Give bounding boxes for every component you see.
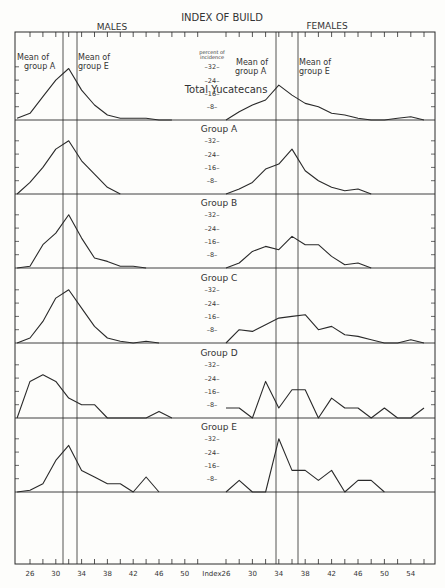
y-tick-label: –32– [205,286,220,294]
y-tick-label: –8– [207,251,218,259]
x-tick-label-males: 50 [180,570,189,578]
panel-title: Total Yucatecans [184,84,268,95]
chart-frame [15,32,435,564]
panel-title: Group E [201,422,237,432]
panel-title: Group C [201,273,238,283]
x-tick-label-females: 30 [248,570,257,578]
index-of-build-chart: INDEX OF BUILD MALES FEMALES percent of … [0,0,445,588]
y-tick-label: –32– [205,137,220,145]
x-tick-label-males: 26 [26,570,35,578]
x-tick-label-males: 34 [77,570,86,578]
x-tick-label-females: 26 [222,570,231,578]
mean-a-males-1: Mean of [17,53,49,62]
mean-a-females-2: group A [235,67,267,76]
y-tick-label: –16– [205,164,220,172]
mean-e-females-1: Mean of [299,58,331,67]
frame-border [15,32,435,564]
y-tick-label: –24– [205,300,220,308]
males-series-line [17,215,146,268]
y-tick-label: –16– [205,238,220,246]
females-series-line [226,381,424,418]
y-tick-label: –24– [205,225,220,233]
x-tick-label-females: 50 [380,570,389,578]
mean-lines [15,32,435,564]
y-tick-label: –24– [205,151,220,159]
males-series-line [17,290,159,343]
x-tick-label-females: 34 [274,570,283,578]
females-label: FEMALES [306,21,347,31]
males-series-line [17,375,172,418]
y-tick-label: –8– [207,177,218,185]
x-tick-label-males: 42 [129,570,138,578]
x-tick-label-males: 30 [51,570,60,578]
y-tick-label: –8– [207,326,218,334]
x-tick-label-females: 46 [354,570,363,578]
y-tick-label: –32– [205,211,220,219]
panel-title: Group B [201,198,237,208]
y-tick-label: –32– [205,361,220,369]
y-unit-label-2: incidence [200,54,224,60]
x-tick-label-males: 38 [103,570,112,578]
males-label: MALES [97,22,128,32]
y-tick-label: –32– [205,63,220,71]
males-series-line [17,445,159,492]
y-tick-label: –8– [207,401,218,409]
y-tick-label: –24– [205,449,220,457]
females-series-line [226,149,371,194]
y-tick-label: –16– [205,462,220,470]
males-series-line [17,69,172,121]
x-tick-label-females: 38 [301,570,310,578]
panel-title: Group A [201,124,238,134]
y-tick-label: –16– [205,313,220,321]
mean-a-males-2: group A [24,62,56,71]
x-axis-label: Index [202,570,221,578]
x-tick-label-males: 46 [155,570,164,578]
males-series-line [17,141,120,194]
mean-e-males-1: Mean of [78,53,110,62]
females-series-line [226,236,371,268]
chart-title: INDEX OF BUILD [181,12,263,23]
y-tick-label: –8– [207,103,218,111]
y-tick-label: –24– [205,375,220,383]
y-tick-label: –32– [205,435,220,443]
x-tick-label-females: 42 [327,570,336,578]
mean-e-males-2: group E [78,62,109,71]
x-tick-label-females: 54 [406,570,415,578]
panel-title: Group D [200,348,237,358]
mean-a-females-1: Mean of [236,58,268,67]
females-series-line [226,439,384,492]
y-tick-label: –8– [207,475,218,483]
females-series-line [226,315,424,343]
mean-e-females-2: group E [299,67,330,76]
y-tick-label: –16– [205,388,220,396]
